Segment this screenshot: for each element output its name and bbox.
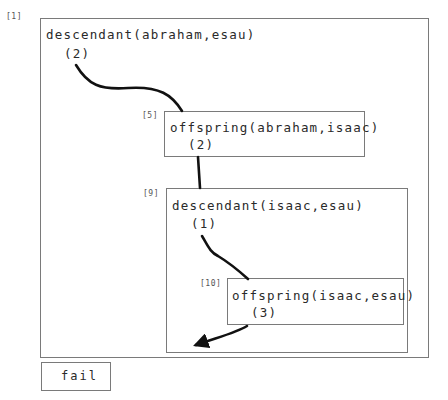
frame-9-goal: descendant(isaac,esau) [172, 198, 364, 213]
frame-10-count: (3) [251, 305, 277, 320]
frame-9-tag: [9] [143, 189, 159, 198]
frame-5-count: (2) [188, 137, 214, 152]
frame-5-tag: [5] [142, 111, 158, 120]
frame-1-goal: descendant(abraham,esau) [46, 27, 255, 42]
frame-5-goal: offspring(abraham,isaac) [170, 120, 379, 135]
frame-10-goal: offspring(isaac,esau) [232, 288, 415, 303]
frame-10-tag: [10] [200, 279, 221, 288]
frame-1-count: (2) [64, 46, 90, 61]
frame-9-count: (1) [191, 216, 217, 231]
fail-label: fail [61, 369, 98, 383]
frame-1-tag: [1] [6, 12, 22, 21]
